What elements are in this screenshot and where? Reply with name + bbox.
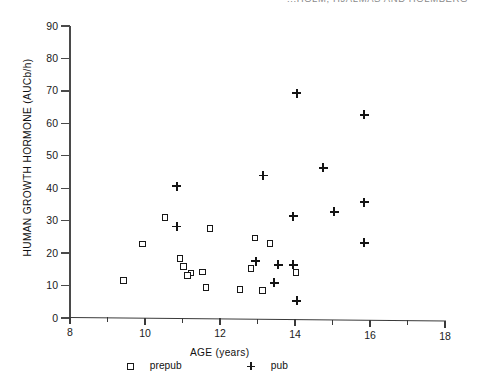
y-axis-tick — [61, 188, 70, 189]
y-axis-tick-label: 40 — [32, 183, 58, 194]
x-axis-tick-minor — [332, 320, 333, 325]
y-axis-tick-label: 60 — [32, 118, 58, 129]
data-point-prepub — [207, 225, 214, 232]
data-point-prepub — [203, 284, 210, 291]
data-point-pub — [172, 222, 181, 231]
data-point-prepub — [184, 272, 191, 279]
x-axis-title: AGE (years) — [190, 347, 249, 358]
x-axis-tick-minor — [107, 317, 108, 322]
data-point-pub — [292, 296, 301, 305]
y-axis-tick — [61, 90, 70, 91]
chart-legend: prepub pub — [0, 360, 480, 382]
y-axis-tick — [61, 220, 70, 221]
data-point-pub — [289, 212, 298, 221]
x-axis-tick-label: 16 — [355, 330, 385, 341]
legend-label-pub: pub — [271, 360, 288, 371]
y-axis-tick — [61, 25, 70, 26]
x-axis-tick-major — [219, 318, 220, 325]
x-axis-tick-major — [144, 318, 145, 325]
x-axis-tick-label: 18 — [430, 331, 460, 342]
y-axis-tick-label: 90 — [32, 21, 58, 32]
open-square-marker-icon — [127, 363, 134, 370]
x-axis-tick-label: 10 — [130, 328, 160, 339]
plus-marker-icon — [247, 362, 255, 370]
legend-entry-prepub: prepub — [127, 360, 182, 372]
x-axis-tick-minor — [257, 319, 258, 324]
data-point-prepub — [139, 241, 146, 248]
x-axis-tick-major — [369, 320, 370, 327]
y-axis-title: HUMAN GROWTH HORMONE (AUCb/h) — [22, 43, 33, 273]
data-point-prepub — [162, 214, 169, 221]
data-point-prepub — [267, 240, 274, 247]
data-point-pub — [360, 110, 369, 119]
legend-label-prepub: prepub — [150, 360, 182, 371]
y-axis-tick-label: 10 — [32, 280, 58, 291]
y-axis-tick — [61, 252, 70, 253]
y-axis-tick-label: 80 — [32, 53, 58, 64]
x-axis-tick-major — [294, 319, 295, 326]
data-point-pub — [274, 260, 283, 269]
y-axis-tick — [61, 285, 70, 286]
x-axis-tick-minor — [407, 320, 408, 325]
x-axis-tick-labels: 81012141618 — [0, 327, 480, 341]
data-point-prepub — [180, 263, 187, 270]
data-point-pub — [270, 278, 279, 287]
y-axis-tick-label: 70 — [32, 85, 58, 96]
data-point-prepub — [177, 255, 184, 262]
data-point-pub — [330, 207, 339, 216]
data-point-pub — [172, 182, 181, 191]
data-point-prepub — [259, 287, 266, 294]
data-point-prepub — [248, 265, 255, 272]
data-point-pub — [259, 171, 268, 180]
x-axis-tick-major — [69, 317, 70, 324]
data-point-pub — [360, 198, 369, 207]
x-axis-tick-label: 14 — [280, 329, 310, 340]
plot-area — [70, 26, 445, 318]
y-axis-tick-label: 50 — [32, 150, 58, 161]
y-axis-tick-label: 30 — [32, 215, 58, 226]
data-point-prepub — [237, 286, 244, 293]
data-point-prepub — [199, 269, 206, 276]
data-point-pub — [251, 257, 260, 266]
data-point-pub — [289, 260, 298, 269]
y-axis-tick — [61, 123, 70, 124]
data-point-prepub — [293, 269, 300, 276]
x-axis-tick-label: 8 — [55, 327, 85, 338]
y-axis-tick — [61, 58, 70, 59]
data-point-pub — [292, 89, 301, 98]
x-axis-tick-label: 12 — [205, 328, 235, 339]
data-point-pub — [360, 238, 369, 247]
y-axis-tick-label: 20 — [32, 248, 58, 259]
data-point-pub — [319, 163, 328, 172]
x-axis-tick-minor — [182, 318, 183, 323]
data-point-prepub — [120, 277, 127, 284]
legend-entry-pub: pub — [247, 360, 288, 372]
scatter-chart-figure: 0102030405060708090 81012141618 HUMAN GR… — [0, 0, 480, 389]
data-point-prepub — [252, 235, 259, 242]
y-axis-tick — [61, 155, 70, 156]
